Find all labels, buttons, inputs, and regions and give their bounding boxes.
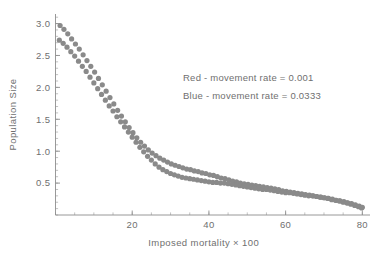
data-point (58, 23, 63, 28)
data-point (80, 64, 85, 69)
x-axis-title: Imposed mortality × 100 (148, 237, 259, 248)
data-point (87, 75, 92, 80)
data-point (103, 98, 108, 103)
data-point (81, 52, 86, 57)
data-series-2 (57, 38, 364, 211)
data-point (68, 49, 73, 54)
data-point (77, 47, 82, 52)
y-tick-label: 2.5 (36, 50, 50, 61)
data-point (73, 41, 78, 46)
data-point (92, 69, 97, 74)
data-point (64, 45, 69, 50)
x-tick-label: 60 (280, 219, 291, 230)
data-point (359, 205, 364, 210)
data-point (95, 86, 100, 91)
data-point (99, 92, 104, 97)
x-axis-tick-labels: 20406080 (127, 219, 368, 230)
data-point (133, 140, 138, 145)
data-point (107, 95, 112, 100)
data-point (130, 135, 135, 140)
legend-entry-red: Red - movement rate = 0.001 (183, 72, 314, 83)
x-tick-label: 20 (127, 219, 138, 230)
data-point (107, 103, 112, 108)
x-tick-label: 80 (357, 219, 368, 230)
data-point (142, 143, 147, 148)
y-tick-label: 1.5 (36, 114, 50, 125)
data-point (115, 108, 120, 113)
data-point (61, 27, 66, 32)
data-point (126, 129, 131, 134)
x-tick-label: 40 (203, 219, 214, 230)
data-point (72, 54, 77, 59)
data-point (76, 59, 81, 64)
data-point (119, 114, 124, 119)
data-point (127, 125, 132, 130)
data-point (69, 36, 74, 41)
data-point (84, 58, 89, 63)
scatter-plot: 0.51.01.52.02.53.0 20406080 Imposed mort… (0, 0, 391, 259)
y-tick-label: 2.0 (36, 82, 50, 93)
data-point (122, 124, 127, 129)
data-point (138, 140, 143, 145)
data-point (141, 149, 146, 154)
y-axis-tick-labels: 0.51.01.52.02.53.0 (36, 18, 50, 189)
y-axis-title: Population Size (7, 78, 18, 150)
data-point (104, 89, 109, 94)
data-point (100, 82, 105, 87)
data-point (149, 158, 154, 163)
y-tick-label: 1.0 (36, 146, 50, 157)
y-tick-label: 3.0 (36, 18, 50, 29)
data-point (88, 64, 93, 69)
data-point (130, 130, 135, 135)
data-point (118, 119, 123, 124)
data-point (137, 145, 142, 150)
y-axis-major-ticks (56, 24, 61, 184)
data-point (114, 114, 119, 119)
data-point (84, 69, 89, 74)
data-point (61, 41, 66, 46)
data-point (111, 101, 116, 106)
data-point (123, 119, 128, 124)
legend-entry-blue: Blue - movement rate = 0.0333 (183, 90, 321, 101)
data-point (134, 135, 139, 140)
data-point (110, 108, 115, 113)
data-point (65, 31, 70, 36)
data-point-layer (57, 23, 365, 211)
data-point (96, 76, 101, 81)
data-point (145, 154, 150, 159)
data-point (91, 80, 96, 85)
chart-figure: 0.51.01.52.02.53.0 20406080 Imposed mort… (0, 0, 391, 259)
y-tick-label: 0.5 (36, 177, 50, 188)
